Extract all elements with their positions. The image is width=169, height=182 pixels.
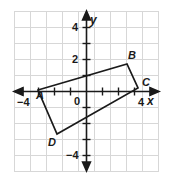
y-tick-label-neg4: −4 — [66, 150, 79, 161]
x-tick-label-neg4: −4 — [17, 97, 30, 108]
vertex-label-a: A — [36, 90, 44, 101]
vertex-label-b: B — [128, 50, 136, 61]
vertex-label-d: D — [48, 137, 56, 148]
y-tick-label-4: 4 — [72, 22, 78, 33]
coordinate-plane-figure: −4 4 0 2 4 −4 y x A B C D — [0, 0, 169, 182]
x-tick-label-4: 4 — [138, 97, 144, 108]
x-axis-name: x — [147, 95, 154, 107]
y-axis-name: y — [90, 14, 97, 26]
origin-label: 0 — [74, 96, 80, 107]
y-tick-label-2: 2 — [72, 54, 78, 65]
coordinate-plane-svg — [0, 0, 169, 182]
vertex-label-c: C — [142, 77, 150, 88]
